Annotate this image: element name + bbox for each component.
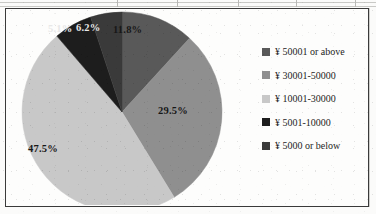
pie-plot-area: [7, 10, 255, 205]
pie-clip: [7, 10, 255, 205]
legend-item-label: ¥ 50001 or above: [275, 46, 345, 57]
page-column-rule: [369, 8, 370, 207]
slice-percentage-label: 11.8%: [113, 24, 142, 35]
legend-item-label: ¥ 5000 or below: [275, 140, 340, 151]
legend-color-swatch: [262, 71, 270, 79]
legend-item: ¥ 5001-10000: [262, 117, 372, 128]
legend-color-swatch: [262, 118, 270, 126]
pie-slices: [22, 12, 222, 205]
scan-tick: [177, 0, 178, 7]
legend-item-label: ¥ 30001-50000: [275, 70, 336, 81]
slice-percentage-label: 47.5%: [28, 143, 58, 154]
slice-percentage-label: 29.5%: [158, 105, 188, 116]
legend-item-label: ¥ 10001-30000: [275, 93, 336, 104]
scan-rule-top: [0, 2, 376, 3]
figure-page: 11.8%29.5%47.5%6.2%5.1% ¥ 50001 or above…: [0, 0, 376, 214]
scan-rule-top-2: [0, 6, 376, 7]
scan-tick: [238, 0, 239, 7]
legend-item: ¥ 5000 or below: [262, 140, 372, 151]
slice-percentage-label: 5.1%: [48, 23, 72, 34]
legend-item: ¥ 10001-30000: [262, 93, 372, 104]
legend-color-swatch: [262, 95, 270, 103]
slice-percentage-label: 6.2%: [76, 22, 100, 33]
legend-color-swatch: [262, 142, 270, 150]
pie-chart: [7, 10, 255, 205]
scan-tick: [117, 0, 118, 7]
scan-tick: [355, 0, 356, 7]
chart-legend: ¥ 50001 or above¥ 30001-50000¥ 10001-300…: [262, 46, 372, 164]
legend-item: ¥ 50001 or above: [262, 46, 372, 57]
legend-color-swatch: [262, 48, 270, 56]
scan-tick: [296, 0, 297, 7]
legend-item: ¥ 30001-50000: [262, 70, 372, 81]
legend-item-label: ¥ 5001-10000: [275, 117, 331, 128]
